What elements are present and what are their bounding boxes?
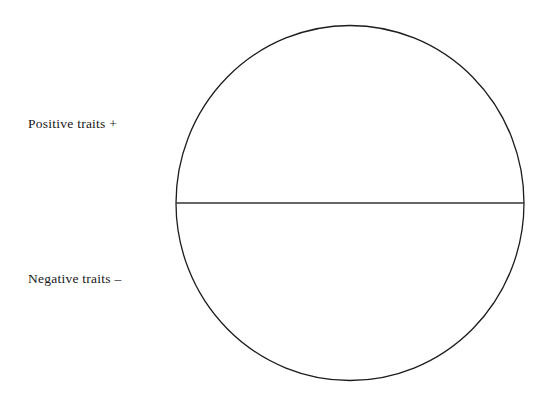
negative-traits-label: Negative traits – <box>28 272 121 286</box>
positive-traits-label: Positive traits + <box>28 117 117 131</box>
diagram-canvas: Positive traits + Negative traits – <box>0 0 549 399</box>
bisected-circle-diagram <box>0 0 549 399</box>
